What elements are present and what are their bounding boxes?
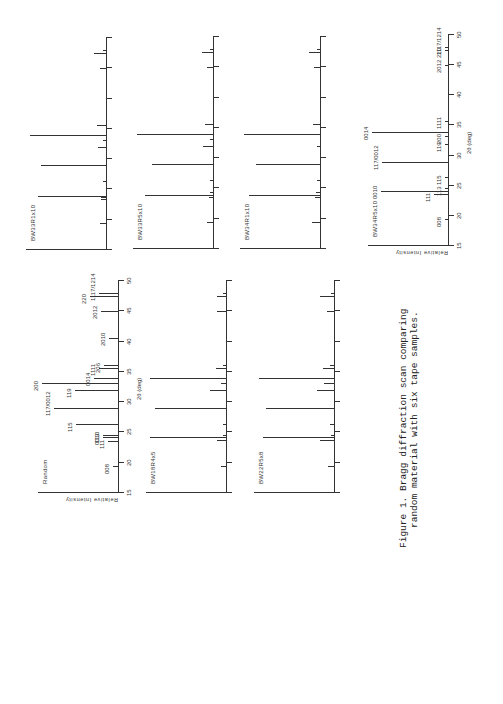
peak-line — [320, 296, 334, 297]
peak-line — [203, 146, 213, 147]
axis-tick — [334, 431, 340, 432]
peak-label: 2010 — [100, 332, 106, 345]
axis-tick — [334, 371, 340, 372]
axis-line — [334, 280, 335, 492]
panel-name: BW22R5x8 — [258, 451, 264, 484]
peak-line — [209, 197, 213, 198]
peak-line — [217, 296, 226, 297]
peak-line — [327, 311, 334, 312]
peak-line — [103, 437, 118, 438]
panel-name: Random — [42, 460, 48, 484]
axis-tick — [320, 218, 326, 219]
peak-line — [101, 197, 106, 198]
peak-line — [108, 441, 118, 442]
panel-name: BW34R1x10 — [244, 204, 250, 240]
peak-line — [94, 53, 106, 54]
y-axis-label: Relative Intensity — [65, 497, 118, 503]
axis-tick — [334, 341, 340, 342]
peak-line — [210, 180, 213, 181]
peak-line — [445, 219, 448, 220]
peak-label: 1117/1214 — [436, 27, 442, 54]
peak-line — [150, 437, 226, 438]
axis-tick — [320, 97, 326, 98]
peak-line — [266, 408, 334, 409]
axis-tick — [213, 127, 219, 128]
axis-tick — [226, 341, 232, 342]
peak-line — [445, 177, 448, 178]
peak-line — [330, 424, 334, 425]
axis-tick — [226, 462, 232, 463]
peak-line — [445, 50, 448, 51]
axis-tick — [106, 128, 112, 129]
axis-tick — [334, 280, 340, 281]
axis-tick — [334, 462, 340, 463]
peak-line — [38, 196, 106, 197]
peak-line — [317, 390, 334, 391]
axis-tick — [226, 371, 232, 372]
peak-line — [221, 466, 226, 467]
peak-line — [315, 197, 320, 198]
axis-line — [213, 36, 214, 248]
axis-tick — [320, 157, 326, 158]
peak-line — [445, 136, 448, 137]
peak-line — [103, 435, 118, 436]
peak-label: 008 — [104, 464, 110, 474]
peak-label: 1111 — [436, 117, 442, 129]
peak-line — [372, 132, 448, 133]
peak-line — [320, 440, 334, 441]
peak-label: 117/0012 — [45, 392, 51, 417]
peak-label: 2012 — [92, 306, 98, 319]
tick-label: 40 — [126, 338, 132, 345]
axis-tick — [448, 124, 454, 125]
peak-line — [249, 195, 320, 196]
peak-line — [217, 440, 226, 441]
tick-label: 25 — [456, 182, 462, 189]
peak-line — [99, 293, 118, 294]
peak-line — [54, 408, 118, 409]
axis-tick — [448, 155, 454, 156]
peak-line — [330, 365, 334, 366]
peak-line — [207, 222, 213, 223]
axis-tick — [226, 431, 232, 432]
peak-line — [324, 383, 334, 384]
peak-line — [137, 134, 213, 135]
peak-line — [223, 293, 226, 294]
peak-line — [41, 165, 106, 166]
peak-line — [221, 383, 226, 384]
axis-line — [448, 34, 449, 245]
peak-line — [97, 125, 106, 126]
axis-tick — [334, 310, 340, 311]
peak-line — [109, 338, 118, 339]
peak-line — [101, 311, 118, 312]
tick-label: 30 — [126, 398, 132, 405]
peak-line — [263, 437, 334, 438]
figure-caption: Figure 1. Bragg diffraction scan compari… — [398, 309, 420, 548]
peak-line — [42, 383, 118, 384]
peak-line — [317, 49, 320, 50]
axis-tick — [213, 66, 219, 67]
peak-line — [223, 365, 226, 366]
axis-tick — [213, 36, 219, 37]
tick-label: 50 — [126, 277, 132, 284]
peak-line — [445, 144, 448, 145]
peak-line — [223, 424, 226, 425]
peak-line — [202, 52, 213, 53]
peak-line — [328, 466, 334, 467]
peak-line — [314, 67, 320, 68]
peak-line — [316, 192, 320, 193]
peak-line — [445, 188, 448, 189]
baseline — [26, 249, 112, 250]
peak-label: 113 — [436, 187, 442, 197]
axis-tick — [118, 371, 124, 372]
y-axis-label: Relative Intensity — [395, 250, 448, 256]
peak-line — [317, 180, 320, 181]
tick-label: 45 — [456, 61, 462, 68]
tick-label: 50 — [456, 31, 462, 38]
peak-line — [210, 192, 213, 193]
peak-line — [205, 124, 213, 125]
peak-line — [256, 164, 320, 165]
peak-label: 1117/1214 — [90, 273, 96, 300]
tick-label: 15 — [456, 242, 462, 249]
peak-line — [30, 135, 106, 136]
baseline — [368, 245, 454, 246]
